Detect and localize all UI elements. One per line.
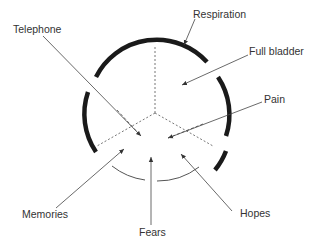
radius-lower-left <box>97 113 155 146</box>
label-respiration: Respiration <box>193 8 246 20</box>
label-telephone: Telephone <box>13 23 62 35</box>
arrow-dashes <box>117 110 203 138</box>
arc-top <box>96 40 207 77</box>
dotted-radii <box>97 45 213 146</box>
sleep-influences-diagram: Respiration Full bladder Pain Telephone … <box>0 0 314 248</box>
label-pain: Pain <box>264 93 285 105</box>
arrow-full-bladder <box>182 55 248 85</box>
arc-right-upper <box>218 77 229 136</box>
arrow-telephone <box>43 36 141 136</box>
label-fears: Fears <box>139 226 166 238</box>
arc-bottom-left <box>112 166 145 180</box>
thick-arcs <box>84 40 229 170</box>
label-hopes: Hopes <box>240 207 270 219</box>
label-memories: Memories <box>22 208 68 220</box>
arrow-memories <box>56 149 124 208</box>
arrow-respiration <box>184 19 195 45</box>
radius-lower-right <box>155 113 213 146</box>
arc-left <box>84 92 96 152</box>
thin-arcs <box>112 166 199 181</box>
arrow-hopes <box>181 154 232 211</box>
arc-bottom-right <box>157 167 199 181</box>
arc-right-lower <box>215 151 226 170</box>
label-full-bladder: Full bladder <box>249 45 304 57</box>
